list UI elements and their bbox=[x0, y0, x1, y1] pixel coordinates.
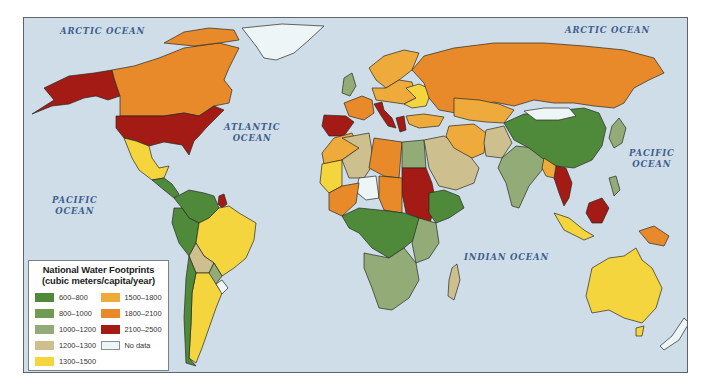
region-greece bbox=[396, 116, 406, 132]
legend-item: 1500–1800 bbox=[101, 289, 163, 305]
region-egypt bbox=[402, 140, 426, 168]
legend-swatch bbox=[35, 341, 54, 350]
region-ethiopia-horn bbox=[429, 190, 464, 223]
region-mali-niger bbox=[356, 176, 379, 200]
region-russia bbox=[412, 43, 664, 113]
region-new-zealand bbox=[660, 318, 688, 350]
legend-label: 1800–2100 bbox=[125, 309, 162, 318]
legend-label: 600–800 bbox=[59, 293, 88, 302]
region-guyana bbox=[218, 194, 227, 208]
legend-item: No data bbox=[101, 337, 163, 353]
region-southeast-asia bbox=[554, 166, 572, 206]
region-spain bbox=[322, 115, 354, 136]
legend-label: 1300–1500 bbox=[59, 357, 96, 366]
region-france bbox=[344, 96, 374, 120]
arctic-ocean-west-label: ARCTIC OCEAN bbox=[60, 26, 145, 37]
map-legend: National Water Footprints (cubic meters/… bbox=[28, 260, 169, 371]
region-alaska bbox=[32, 70, 120, 114]
region-central-africa bbox=[342, 208, 419, 258]
legend-item: 1300–1500 bbox=[35, 353, 97, 369]
indian-ocean-label: INDIAN OCEAN bbox=[464, 252, 549, 263]
legend-swatch bbox=[101, 293, 120, 302]
legend-item: 2100–2500 bbox=[101, 321, 163, 337]
legend-swatch bbox=[35, 309, 54, 318]
world-map: ARCTIC OCEANARCTIC OCEANATLANTICOCEANPAC… bbox=[23, 17, 688, 373]
legend-title: National Water Footprints bbox=[35, 265, 162, 276]
legend-label: 1000–1200 bbox=[59, 325, 96, 334]
pacific-ocean-west-label: PACIFICOCEAN bbox=[52, 195, 98, 217]
region-central-europe bbox=[372, 80, 416, 104]
legend-item: 800–1000 bbox=[35, 305, 97, 321]
legend-swatch bbox=[35, 325, 54, 334]
region-tasmania bbox=[636, 326, 644, 336]
region-philippines bbox=[609, 176, 620, 196]
region-greenland bbox=[242, 24, 324, 60]
legend-label: 1500–1800 bbox=[125, 293, 162, 302]
region-new-guinea bbox=[639, 226, 669, 246]
region-indonesia-west bbox=[554, 213, 594, 240]
pacific-ocean-east-label: PACIFICOCEAN bbox=[629, 148, 675, 170]
region-canada-arctic-islands bbox=[164, 28, 239, 46]
legend-subtitle: (cubic meters/capita/year) bbox=[35, 276, 162, 287]
atlantic-ocean-label: ATLANTICOCEAN bbox=[224, 122, 280, 144]
region-italy bbox=[374, 102, 396, 128]
region-madagascar bbox=[448, 264, 460, 300]
region-central-america bbox=[152, 178, 179, 198]
legend-swatch bbox=[101, 325, 120, 334]
legend-items: 600–800 800–1000 1000–1200 1200–1300 130… bbox=[35, 289, 162, 369]
region-borneo bbox=[586, 198, 609, 223]
legend-label: No data bbox=[125, 341, 151, 350]
legend-swatch bbox=[35, 293, 54, 302]
legend-label: 800–1000 bbox=[59, 309, 92, 318]
legend-label: 2100–2500 bbox=[125, 325, 162, 334]
region-uk bbox=[342, 73, 356, 96]
region-japan-korea bbox=[609, 118, 626, 148]
region-argentina bbox=[189, 273, 222, 363]
legend-item: 600–800 bbox=[35, 289, 97, 305]
region-australia bbox=[586, 248, 662, 323]
legend-label: 1200–1300 bbox=[59, 341, 96, 350]
legend-item: 1800–2100 bbox=[101, 305, 163, 321]
arctic-ocean-east-label: ARCTIC OCEAN bbox=[565, 25, 650, 36]
legend-swatch bbox=[101, 309, 120, 318]
region-southern-africa bbox=[364, 248, 419, 310]
region-libya bbox=[369, 138, 402, 178]
legend-item: 1200–1300 bbox=[35, 337, 97, 353]
region-turkey bbox=[406, 114, 444, 128]
legend-swatch bbox=[35, 357, 54, 366]
legend-swatch bbox=[101, 341, 120, 350]
region-chad-region bbox=[379, 176, 402, 213]
region-canada bbox=[112, 43, 239, 116]
legend-item: 1000–1200 bbox=[35, 321, 97, 337]
